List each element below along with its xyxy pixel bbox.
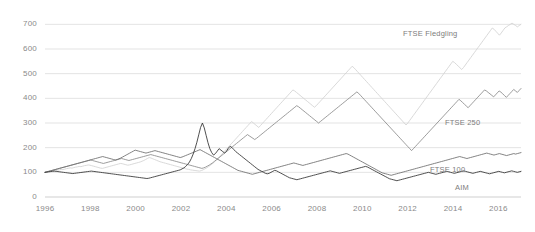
x-axis-tick-label: 2016 [478,204,518,213]
x-axis-tick-label: 2012 [388,204,428,213]
x-axis-tick-label: 2010 [342,204,382,213]
series-label-2: FTSE 100 [430,165,465,174]
y-axis-tick-label: 300 [11,118,37,127]
series-label-3: AIM [455,183,469,192]
series-label-0: FTSE Fledgling [403,29,458,38]
y-axis-tick-label: 500 [11,69,37,78]
x-axis-tick-label: 1996 [25,204,65,213]
series-label-1: FTSE 250 [445,118,480,127]
x-axis-tick-label: 2002 [161,204,201,213]
x-axis-tick-label: 2014 [433,204,473,213]
x-axis-tick-label: 2006 [252,204,292,213]
series-line-0 [45,23,521,172]
y-axis-tick-label: 100 [11,167,37,176]
stock-index-line-chart: 0100200300400500600700199619982000200220… [0,0,535,232]
y-axis-tick-label: 0 [11,192,37,201]
x-axis-tick-label: 2008 [297,204,337,213]
x-axis-tick-label: 2004 [206,204,246,213]
y-axis-tick-label: 700 [11,19,37,28]
y-axis-tick-label: 400 [11,93,37,102]
x-axis-tick-label: 2000 [116,204,156,213]
x-axis-tick-label: 1998 [70,204,110,213]
y-axis-tick-label: 600 [11,44,37,53]
y-axis-tick-label: 200 [11,143,37,152]
